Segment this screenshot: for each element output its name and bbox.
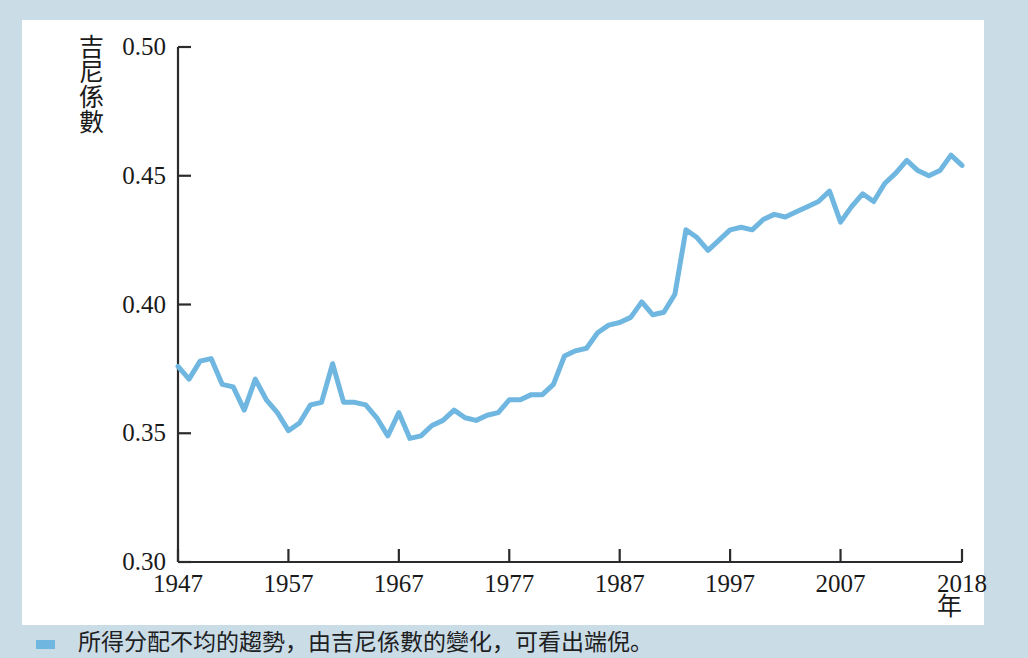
- x-axis-tick-label: 1987: [595, 570, 645, 598]
- y-axis-tick-label: 0.40: [122, 291, 166, 319]
- chart-plot-area: [22, 20, 984, 625]
- x-axis-tick-label: 2018: [937, 570, 987, 598]
- caption-legend-swatch: [36, 640, 55, 649]
- x-axis-tick-label: 1997: [705, 570, 755, 598]
- data-series-line: [178, 155, 962, 438]
- y-axis-tick-label: 0.45: [122, 162, 166, 190]
- y-axis-title: 吉尼係數: [72, 34, 102, 134]
- x-axis-tick-label: 1957: [263, 570, 313, 598]
- x-axis-tick-label: 2007: [816, 570, 866, 598]
- y-axis-tick-label: 0.50: [122, 33, 166, 61]
- figure-page: 吉尼係數 年 0.300.350.400.450.501947195719671…: [0, 0, 1028, 658]
- gini-line-chart: 吉尼係數 年 0.300.350.400.450.501947195719671…: [22, 20, 984, 625]
- x-axis-tick-label: 1967: [374, 570, 424, 598]
- figure-caption: 所得分配不均的趨勢，由吉尼係數的變化，可看出端倪。: [78, 631, 653, 657]
- figure-caption-clip: 所得分配不均的趨勢，由吉尼係數的變化，可看出端倪。: [0, 631, 1028, 658]
- y-axis-tick-label: 0.35: [122, 419, 166, 447]
- x-axis-tick-label: 1947: [153, 570, 203, 598]
- x-axis-tick-label: 1977: [484, 570, 534, 598]
